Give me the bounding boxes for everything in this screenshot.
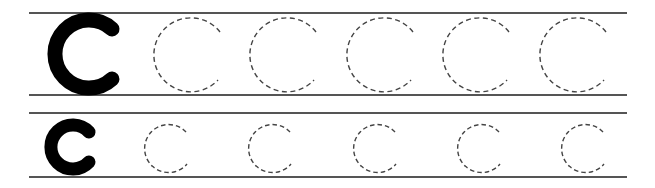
model-letter-lower-c	[51, 125, 89, 169]
trace-upper-c-3[interactable]	[347, 18, 413, 92]
letter-tracing-worksheet	[0, 0, 655, 188]
trace-upper-c-5[interactable]	[540, 18, 606, 92]
trace-lower-c-3[interactable]	[354, 125, 396, 173]
worksheet-canvas	[0, 0, 655, 188]
model-letter-upper-c	[55, 20, 112, 88]
trace-letters-lower	[145, 125, 604, 173]
trace-upper-c-4[interactable]	[443, 18, 509, 92]
trace-lower-c-2[interactable]	[249, 125, 291, 173]
trace-lower-c-5[interactable]	[562, 125, 604, 173]
trace-lower-c-4[interactable]	[458, 125, 500, 173]
trace-upper-c-2[interactable]	[250, 18, 316, 92]
trace-letters-upper	[154, 18, 606, 92]
trace-upper-c-1[interactable]	[154, 18, 220, 92]
trace-lower-c-1[interactable]	[145, 125, 187, 173]
